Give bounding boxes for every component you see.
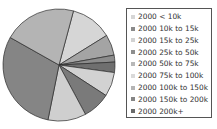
pie-chart	[0, 6, 120, 126]
legend-item: 2000 15k to 25k	[131, 35, 211, 47]
legend-item: 2000 100k to 150k	[131, 82, 211, 94]
legend-label: 2000 75k to 100k	[138, 72, 203, 79]
legend-swatch	[131, 15, 135, 19]
legend-item: 2000 150k to 200k	[131, 94, 211, 106]
legend-swatch	[131, 38, 135, 42]
legend-swatch	[131, 109, 135, 113]
legend-swatch	[131, 97, 135, 101]
legend-label: 2000 10k to 15k	[138, 25, 199, 32]
legend-label: 2000 200k+	[138, 108, 184, 115]
legend-swatch	[131, 27, 135, 31]
legend-swatch	[131, 50, 135, 54]
chart-legend: 2000 < 10k 2000 10k to 15k 2000 15k to 2…	[126, 8, 212, 118]
legend-swatch	[131, 74, 135, 78]
legend-label: 2000 15k to 25k	[138, 37, 199, 44]
legend-label: 2000 50k to 75k	[138, 60, 199, 67]
legend-label: 2000 25k to 50k	[138, 49, 199, 56]
legend-item: 2000 50k to 75k	[131, 58, 211, 70]
legend-item: 2000 75k to 100k	[131, 70, 211, 82]
legend-swatch	[131, 62, 135, 66]
legend-swatch	[131, 86, 135, 90]
legend-item: 2000 < 10k	[131, 11, 211, 23]
legend-label: 2000 150k to 200k	[138, 96, 208, 103]
legend-label: 2000 100k to 150k	[138, 84, 208, 91]
legend-label: 2000 < 10k	[138, 13, 181, 20]
legend-item: 2000 10k to 15k	[131, 23, 211, 35]
legend-item: 2000 25k to 50k	[131, 46, 211, 58]
legend-item: 2000 200k+	[131, 105, 211, 117]
